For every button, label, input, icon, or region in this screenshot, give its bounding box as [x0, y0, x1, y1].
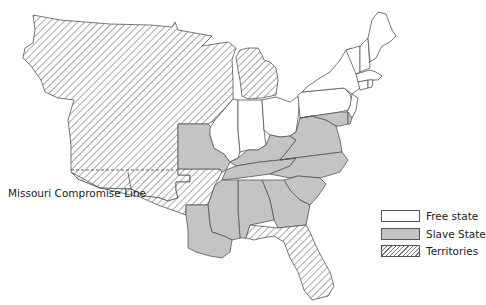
- slave-state-swatch: [381, 228, 420, 240]
- ohio: [262, 95, 300, 137]
- michigan-territory: [236, 48, 278, 99]
- legend-label-free-state: Free state: [426, 210, 478, 222]
- legend-item-territories: Territories: [381, 244, 478, 258]
- missouri-compromise-label: Missouri Compromise Line: [8, 187, 146, 199]
- connecticut: [358, 80, 368, 90]
- legend-label-territories: Territories: [426, 245, 478, 257]
- free-state-swatch: [381, 210, 420, 222]
- territories-swatch: [381, 245, 420, 257]
- legend-item-free-state: Free state: [381, 209, 478, 223]
- indiana: [238, 100, 266, 152]
- legend-label-slave-state: Slave State: [426, 228, 486, 240]
- legend-item-slave-state: Slave State: [381, 227, 486, 241]
- rhode-island: [368, 80, 373, 88]
- florida-territory: [246, 225, 334, 300]
- maine: [368, 12, 396, 62]
